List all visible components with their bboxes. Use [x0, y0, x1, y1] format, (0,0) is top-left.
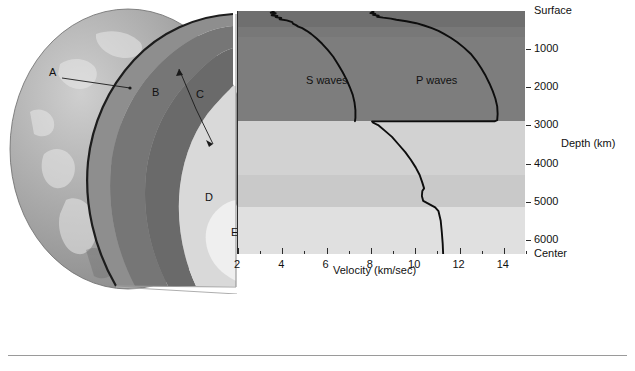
- earth-cutaway-diagram: [0, 4, 250, 294]
- y-tick-1000: [526, 49, 531, 50]
- x-tick-8: [371, 248, 372, 254]
- depth-band-crust-upper-mantle: [238, 11, 525, 27]
- x-tick-label-12: 12: [444, 258, 474, 270]
- x-tick-14: [504, 248, 505, 254]
- x-tick-4: [282, 248, 283, 254]
- y-tick-label-2000: 2000: [534, 80, 558, 92]
- p-wave-label: P waves: [416, 74, 457, 86]
- x-tick-12: [460, 248, 461, 254]
- x-axis-title: Velocity (km/sec): [333, 264, 416, 276]
- y-tick-3000: [526, 125, 531, 126]
- x-tick-minor-7: [349, 251, 350, 255]
- depth-band-upper-mantle: [238, 27, 525, 37]
- depth-band-outer-core-lower: [238, 175, 525, 207]
- y-tick-6000: [526, 240, 531, 241]
- x-tick-minor-13: [482, 251, 483, 255]
- x-tick-2: [238, 248, 239, 254]
- y-axis-title: Depth (km): [561, 137, 615, 149]
- y-tick-label-3000: 3000: [534, 118, 558, 130]
- x-tick-minor-15: [526, 251, 527, 255]
- y-tick-label-center: Center: [534, 247, 567, 259]
- x-tick-10: [415, 248, 416, 254]
- layer-label-C: C: [196, 88, 204, 100]
- layer-label-D: D: [205, 191, 213, 203]
- depth-band-outer-core-upper: [238, 121, 525, 175]
- velocity-depth-chart: [237, 11, 525, 254]
- x-tick-label-14: 14: [488, 258, 518, 270]
- x-tick-minor-11: [437, 251, 438, 255]
- x-tick-label-2: 2: [222, 258, 252, 270]
- x-tick-6: [327, 248, 328, 254]
- y-tick-label-surface: Surface: [534, 4, 572, 16]
- x-tick-label-4: 4: [266, 258, 296, 270]
- layer-label-B: B: [152, 86, 159, 98]
- y-tick-4000: [526, 164, 531, 165]
- s-wave-label: S waves: [306, 74, 348, 86]
- y-tick-label-1000: 1000: [534, 42, 558, 54]
- x-tick-minor-9: [393, 251, 394, 255]
- earth-interior-seismic-figure: A B C D E 2468101214 Surface100020003000…: [0, 0, 635, 371]
- depth-band-inner-core: [238, 207, 525, 254]
- y-tick-label-6000: 6000: [534, 233, 558, 245]
- footer-divider: [8, 355, 627, 356]
- depth-band-lower-mantle: [238, 37, 525, 122]
- layer-label-A: A: [49, 66, 56, 78]
- y-tick-2000: [526, 87, 531, 88]
- y-tick-label-5000: 5000: [534, 195, 558, 207]
- y-tick-5000: [526, 202, 531, 203]
- x-tick-minor-3: [260, 251, 261, 255]
- y-tick-label-4000: 4000: [534, 157, 558, 169]
- wedge-edge-lines: [116, 287, 237, 294]
- x-tick-minor-5: [304, 251, 305, 255]
